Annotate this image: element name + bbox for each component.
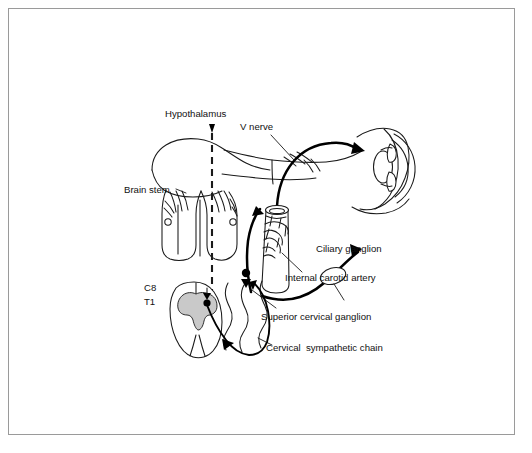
arrowhead-ascending-carotid: [252, 206, 264, 216]
iris-lower-segment: [387, 172, 396, 191]
brainstem-rootlets-right: [212, 191, 237, 225]
label-cervical-sympathetic-chain: Cervical sympathetic chain: [266, 342, 383, 353]
v-nerve-lower-border: [222, 174, 316, 180]
label-hypothalamus: Hypothalamus: [165, 108, 227, 119]
label-ciliary-ganglion: Ciliary ganglion: [316, 243, 382, 254]
label-brain-stem: Brain stem: [124, 184, 170, 195]
label-spinal-level-c8: C8: [144, 282, 156, 293]
hypothalamus-arrowhead: [209, 124, 215, 133]
preganglionic-arrowhead: [222, 339, 234, 350]
label-spinal-level-t1: T1: [144, 296, 155, 307]
ciliary-ganglion-leader: [334, 284, 344, 300]
figure-root: Hypothalamus V nerve Brain stem Ciliary …: [0, 0, 532, 453]
iris-upper-segment: [387, 144, 396, 162]
pons-outline: [152, 139, 270, 170]
v-nerve-group: [222, 150, 362, 184]
superior-cervical-ganglion-dot: [242, 269, 250, 277]
brainstem-rootlets-left: [164, 191, 188, 225]
v-nerve-leader: [271, 135, 294, 160]
eye-group: [352, 128, 415, 213]
v-nerve-trunk: [272, 160, 273, 184]
hypothalamic-tract-group: [209, 124, 215, 310]
chain-strand-mid: [240, 285, 248, 352]
arrowhead-to-globe-upper: [351, 142, 365, 154]
label-v-nerve: V nerve: [240, 121, 273, 132]
brain-stem-leader: [176, 189, 186, 193]
label-internal-carotid-artery: Internal carotid artery: [285, 272, 376, 283]
label-superior-cervical-ganglion: Superior cervical ganglion: [261, 311, 371, 322]
nerve-to-globe-upper: [277, 143, 357, 206]
anatomy-diagram: Hypothalamus V nerve Brain stem Ciliary …: [0, 0, 532, 453]
